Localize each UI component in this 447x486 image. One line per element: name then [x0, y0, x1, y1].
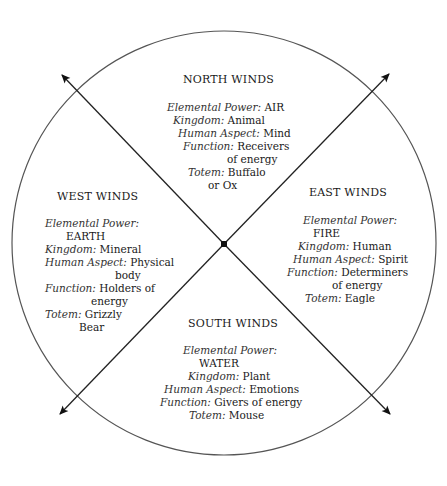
west-human-aspect: Human Aspect: Physical	[45, 256, 174, 269]
west-function-cont: energy	[91, 295, 128, 308]
south-elemental-power-value: WATER	[199, 357, 239, 370]
north-elemental-power: Elemental Power: AIR	[167, 101, 284, 114]
north-kingdom: Kingdom: Animal	[173, 114, 265, 127]
south-elemental-power-label: Elemental Power:	[183, 344, 277, 357]
north-totem-cont: or Ox	[208, 179, 237, 192]
east-totem: Totem: Eagle	[305, 292, 375, 305]
west-totem-cont: Bear	[79, 321, 104, 334]
east-function-cont: of energy	[332, 279, 382, 292]
east-elemental-power-label: Elemental Power:	[303, 214, 397, 227]
west-kingdom: Kingdom: Mineral	[45, 243, 141, 256]
south-winds-title: SOUTH WINDS	[188, 317, 278, 330]
east-kingdom: Kingdom: Human	[298, 240, 391, 253]
north-function-cont: of energy	[227, 153, 277, 166]
north-human-aspect: Human Aspect: Mind	[178, 127, 291, 140]
north-totem: Totem: Buffalo	[188, 166, 266, 179]
north-winds-title: NORTH WINDS	[183, 73, 274, 86]
west-winds-title: WEST WINDS	[57, 190, 138, 203]
east-function: Function: Determiners	[287, 266, 408, 279]
east-elemental-power-value: FIRE	[313, 227, 340, 240]
south-totem: Totem: Mouse	[189, 409, 264, 422]
west-human-aspect-cont: body	[115, 269, 141, 282]
south-kingdom: Kingdom: Plant	[188, 370, 270, 383]
east-human-aspect: Human Aspect: Spirit	[293, 253, 408, 266]
east-winds-title: EAST WINDS	[309, 186, 387, 199]
west-totem: Totem: Grizzly	[45, 308, 122, 321]
center-point	[221, 241, 227, 247]
west-elemental-power-label: Elemental Power:	[45, 217, 139, 230]
south-human-aspect: Human Aspect: Emotions	[164, 383, 299, 396]
south-function: Function: Givers of energy	[160, 396, 302, 409]
west-elemental-power-value: EARTH	[66, 230, 105, 243]
north-function: Function: Receivers	[183, 140, 289, 153]
west-function: Function: Holders of	[45, 282, 155, 295]
